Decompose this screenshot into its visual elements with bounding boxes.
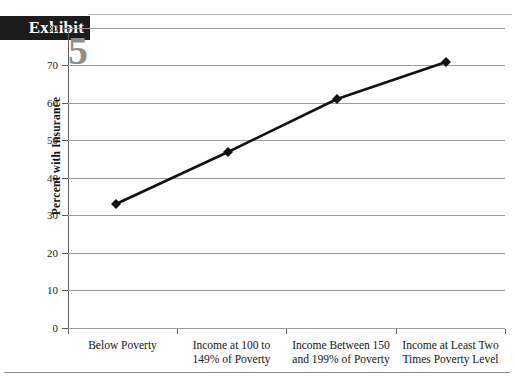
x-axis-label-line-2: Times Poverty Level	[396, 353, 505, 367]
x-axis-label-below-poverty: Below Poverty	[68, 339, 177, 353]
x-axis-label-income-100-149: Income at 100 to 149% of Poverty	[177, 339, 286, 366]
series-polyline	[116, 62, 446, 204]
x-axis-label-income-two-times: Income at Least Two Times Poverty Level	[396, 339, 505, 366]
x-axis-label-line-1: Below Poverty	[68, 339, 177, 353]
data-point-marker-0	[111, 199, 121, 209]
x-axis-label-line-1: Income at Least Two	[396, 339, 505, 353]
x-axis-label-line-1: Income Between 150	[286, 339, 396, 353]
x-axis-label-line-1: Income at 100 to	[177, 339, 286, 353]
line-chart: Percent with Insurance 80 70 60 50 40 30	[0, 0, 514, 385]
x-axis-label-line-2: 149% of Poverty	[177, 353, 286, 367]
data-point-marker-1	[223, 147, 233, 157]
data-point-marker-2	[332, 94, 342, 104]
x-axis-label-income-150-199: Income Between 150 and 199% of Poverty	[286, 339, 396, 366]
x-axis-label-line-2: and 199% of Poverty	[286, 353, 396, 367]
series-line-percent-with-insurance	[0, 0, 514, 385]
data-point-marker-3	[441, 57, 451, 67]
